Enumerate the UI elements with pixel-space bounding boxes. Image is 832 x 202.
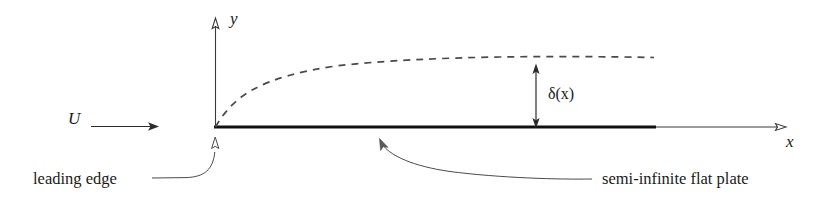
plate-callout-group: semi-infinite flat plate xyxy=(380,139,749,189)
leading-edge-callout-group: leading edge xyxy=(33,137,219,188)
x-axis-group: x xyxy=(654,124,794,151)
delta-measure-group: δ(x) xyxy=(532,64,574,129)
leading-edge-label: leading edge xyxy=(33,169,117,188)
freestream-velocity-label: U xyxy=(68,109,82,128)
leading-edge-arrowhead-icon xyxy=(212,137,219,149)
boundary-layer-figure: y x U δ(x) leading edge xyxy=(0,0,832,202)
plate-leader-line xyxy=(384,146,593,179)
x-axis-arrowhead-icon xyxy=(776,124,787,131)
boundary-layer-edge-curve xyxy=(216,57,655,127)
leading-edge-leader-line xyxy=(152,152,215,178)
diagram-canvas: y x U δ(x) leading edge xyxy=(0,0,832,202)
y-axis-group: y xyxy=(212,9,238,127)
x-axis-label: x xyxy=(785,132,794,151)
plate-label: semi-infinite flat plate xyxy=(602,169,749,188)
freestream-velocity-group: U xyxy=(68,109,159,131)
y-axis-label: y xyxy=(228,9,238,28)
delta-label: δ(x) xyxy=(548,85,574,103)
y-axis-arrowhead-icon xyxy=(212,18,219,29)
